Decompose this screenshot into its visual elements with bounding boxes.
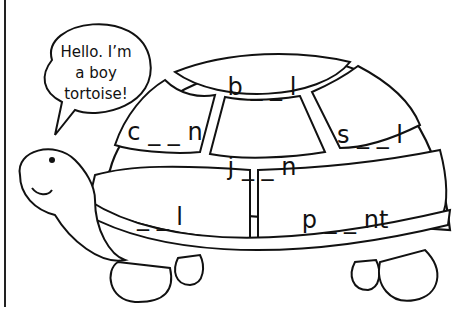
bubble-line-2: a boy — [75, 64, 117, 82]
label-left: c _ _ n — [127, 118, 202, 146]
tortoise-illustration: Hello. I’m a boy tortoise! b _ _ l c _ _… — [0, 0, 457, 313]
bubble-line-1: Hello. I’m — [60, 43, 131, 61]
label-bottom-right: p _ _ nt — [302, 206, 389, 234]
label-right: s _ _ l — [337, 121, 403, 149]
label-top: b _ _ l — [228, 73, 297, 101]
bubble-line-3: tortoise! — [64, 85, 128, 103]
label-bottom-left: _ _ l — [136, 203, 183, 231]
label-center: j _ _ n — [227, 153, 297, 181]
tortoise-legs — [111, 250, 438, 302]
